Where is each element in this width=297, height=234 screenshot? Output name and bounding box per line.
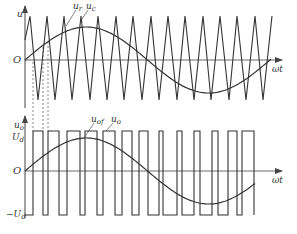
top-origin-label: O (13, 54, 21, 65)
top-y-axis-label: u (17, 9, 23, 19)
projection-lines (33, 42, 48, 131)
bottom-origin-label: O (13, 165, 21, 176)
label-leader-ur (66, 10, 76, 26)
spwm-diagram: u O ωt ur uc uo Ud O −Ud ωt uof uo (0, 0, 297, 234)
label-uo: uo (111, 114, 121, 126)
top-x-axis-label: ωt (272, 64, 283, 74)
triangle-carrier-wave (25, 16, 272, 100)
neg-level-label: −Ud (6, 209, 26, 221)
bottom-x-axis-label: ωt (272, 175, 283, 185)
pos-level-label: Ud (12, 132, 25, 144)
bottom-plot: uo Ud O −Ud ωt uof uo (6, 114, 283, 221)
label-ur: ur (73, 1, 83, 13)
top-plot: u O ωt ur uc (13, 1, 283, 108)
label-leader-uo (106, 123, 113, 131)
bottom-y-axis-label: uo (14, 120, 24, 132)
